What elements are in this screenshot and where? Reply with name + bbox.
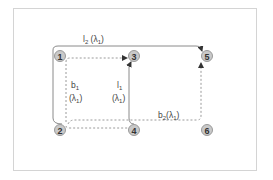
label-l2: l2 (λ1) (83, 34, 104, 45)
label-b1: b1 (71, 80, 80, 91)
svg-text:2: 2 (57, 126, 62, 136)
path-b2 (68, 63, 201, 124)
svg-text:4: 4 (131, 126, 136, 136)
label-b2: b2(λ1) (158, 110, 180, 121)
node-1: 1 (55, 51, 66, 62)
node-6: 6 (202, 125, 213, 136)
label-l1: l1 (117, 80, 123, 91)
path-l1 (129, 62, 134, 124)
svg-text:5: 5 (204, 52, 209, 62)
node-3: 3 (129, 51, 140, 62)
node-4: 4 (129, 125, 140, 136)
node-5: 5 (202, 51, 213, 62)
path-2-4-dashed (66, 126, 128, 128)
node-2: 2 (55, 125, 66, 136)
svg-text:3: 3 (131, 52, 136, 62)
diagram-canvas: l2 (λ1) b1 (λ1) l1 (λ1) b2(λ1) 1 3 5 2 4… (0, 0, 273, 180)
svg-text:6: 6 (204, 126, 209, 136)
label-b1-wavelength: (λ1) (69, 93, 82, 104)
svg-text:1: 1 (57, 52, 62, 62)
label-l1-wavelength: (λ1) (112, 93, 125, 104)
network-graph: l2 (λ1) b1 (λ1) l1 (λ1) b2(λ1) 1 3 5 2 4… (0, 0, 273, 180)
